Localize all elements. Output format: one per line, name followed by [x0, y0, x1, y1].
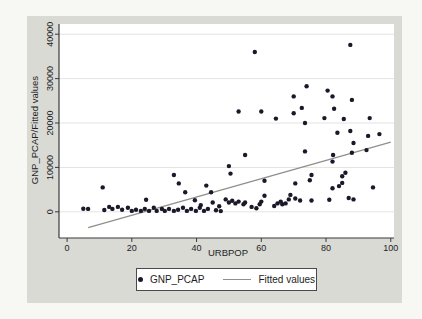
scatter-point — [224, 197, 228, 201]
scatter-point — [340, 181, 344, 185]
scatter-point — [348, 129, 352, 133]
x-tick-label: 60 — [256, 243, 266, 253]
y-tick-label: 30000 — [45, 66, 55, 91]
legend-marker-dot — [138, 277, 143, 282]
scatter-point — [287, 197, 291, 201]
scatter-point — [262, 194, 266, 198]
scatter-point — [343, 171, 347, 175]
scatter-point — [167, 207, 171, 211]
y-tick-label: 40000 — [45, 22, 55, 47]
scatter-point — [350, 151, 354, 155]
scatter-point — [143, 207, 147, 211]
scatter-point — [243, 153, 247, 157]
scatter-point — [194, 209, 198, 213]
scatter-point — [193, 198, 197, 202]
scatter-point — [259, 109, 263, 113]
scatter-point — [337, 184, 341, 188]
scatter-point — [116, 205, 120, 209]
scatter-point — [350, 98, 354, 102]
scatter-point — [262, 179, 266, 183]
x-tick-label: 100 — [383, 243, 398, 253]
scatter-point — [274, 116, 278, 120]
scatter-point — [206, 207, 210, 211]
x-tick-label: 80 — [321, 243, 331, 253]
scatter-point — [236, 199, 240, 203]
y-tick-label: 20000 — [45, 110, 55, 135]
scatter-point — [183, 190, 187, 194]
scatter-point — [172, 173, 176, 177]
scatter-point — [199, 203, 203, 207]
scatter-point — [303, 149, 307, 153]
scatter-point — [204, 183, 208, 187]
scatter-point — [292, 111, 296, 115]
scatter-point — [259, 199, 263, 203]
scatter-point — [227, 164, 231, 168]
scatter-point — [371, 185, 375, 189]
scatter-point — [308, 178, 312, 182]
scatter-point — [189, 207, 193, 211]
scatter-point — [243, 200, 247, 204]
scatter-point — [236, 109, 240, 113]
scatter-point — [309, 198, 313, 202]
scatter-point — [298, 198, 302, 202]
scatter-point — [163, 209, 167, 213]
scatter-point — [249, 205, 253, 209]
scatter-point — [120, 208, 124, 212]
scatter-point — [292, 94, 296, 98]
y-axis-title: GNP_PCAP/Fitted values — [29, 76, 40, 184]
scatter-point — [211, 200, 215, 204]
scatter-point — [86, 207, 90, 211]
scatter-point — [228, 171, 232, 175]
scatter-point — [144, 198, 148, 202]
scatter-point — [214, 208, 218, 212]
scatter-point — [147, 209, 151, 213]
legend-marker-line — [223, 279, 251, 280]
scatter-point — [322, 116, 326, 120]
scatter-point — [134, 208, 138, 212]
scatter-point — [300, 106, 304, 110]
scatter-point — [342, 117, 346, 121]
x-tick-label: 0 — [65, 243, 70, 253]
scatter-point — [330, 159, 334, 163]
scatter-point — [366, 134, 370, 138]
scatter-point — [340, 174, 344, 178]
scatter-point — [348, 43, 352, 47]
scatter-point — [303, 121, 307, 125]
scatter-point — [368, 116, 372, 120]
scatter-point — [293, 196, 297, 200]
chart-legend: GNP_PCAP Fitted values — [136, 268, 317, 291]
scatter-point — [325, 88, 329, 92]
scatter-point — [101, 185, 105, 189]
scatter-point — [330, 186, 334, 190]
scatter-point — [155, 209, 159, 213]
scatter-point — [217, 204, 221, 208]
scatter-point — [304, 84, 308, 88]
scatter-point — [176, 208, 180, 212]
scatter-point — [181, 206, 185, 210]
x-tick-label: 40 — [192, 243, 202, 253]
scatter-point — [254, 206, 258, 210]
scatter-point — [330, 94, 334, 98]
scatter-point — [351, 197, 355, 201]
scatter-point — [110, 207, 114, 211]
legend-label-gnp: GNP_PCAP — [150, 274, 204, 285]
scatter-point — [347, 196, 351, 200]
scatter-point — [126, 206, 130, 210]
scatter-point — [377, 132, 381, 136]
scatter-point — [335, 131, 339, 135]
scatter-point — [288, 193, 292, 197]
y-tick-label: 0 — [45, 209, 55, 214]
x-axis-title: URBPOP — [208, 247, 248, 258]
scatter-point — [309, 173, 313, 177]
page-background: 010000200003000040000020406080100 GNP_PC… — [0, 0, 422, 319]
x-tick-label: 20 — [127, 243, 137, 253]
scatter-point — [332, 107, 336, 111]
scatter-point — [364, 148, 368, 152]
scatter-point — [283, 201, 287, 205]
scatter-point — [139, 209, 143, 213]
scatter-point — [102, 208, 106, 212]
scatter-point — [219, 209, 223, 213]
scatter-point — [172, 209, 176, 213]
scatter-point — [327, 198, 331, 202]
scatter-point — [209, 190, 213, 194]
